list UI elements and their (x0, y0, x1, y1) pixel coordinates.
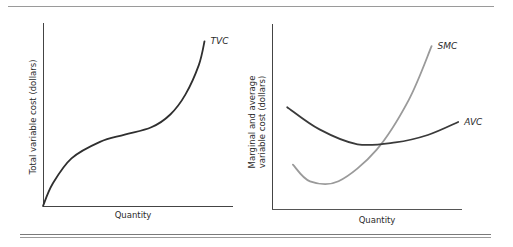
right-chart: SMC AVC Quantity Marginal and average va… (247, 24, 483, 225)
chart-svg: TVC Quantity Total variable cost (dollar… (0, 0, 513, 247)
left-chart: TVC Quantity Total variable cost (dollar… (28, 23, 233, 220)
left-y-axis-title: Total variable cost (dollars) (28, 60, 38, 176)
right-y-axis-title-line-2: variable cost (dollars) (257, 76, 267, 168)
left-x-axis-title: Quantity (115, 210, 152, 220)
right-x-axis-title: Quantity (359, 215, 396, 225)
tvc-label: TVC (211, 36, 230, 46)
figure: TVC Quantity Total variable cost (dollar… (0, 0, 513, 247)
avc-label: AVC (463, 117, 483, 127)
smc-curve (293, 46, 432, 184)
avc-curve (287, 107, 458, 145)
right-y-axis-title-line-1: Marginal and average (247, 76, 257, 169)
tvc-curve (43, 41, 205, 206)
smc-label: SMC (438, 41, 458, 51)
